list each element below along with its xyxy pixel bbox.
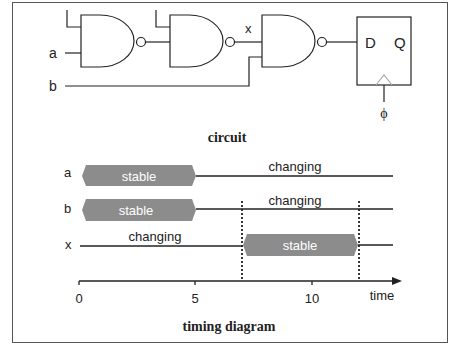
tick-0: 0: [75, 291, 82, 306]
row-label-b: b: [64, 201, 71, 216]
clock-label-phi: ϕ: [380, 106, 387, 121]
changing-label: changing: [129, 229, 182, 244]
tick-10: 10: [305, 291, 319, 306]
input-label-a: a: [49, 45, 57, 61]
stable-label: stable: [283, 238, 318, 253]
circuit-caption: circuit: [208, 130, 247, 145]
timing-caption: timing diagram: [183, 319, 276, 334]
changing-label: changing: [269, 159, 322, 174]
flip-flop-d-label: D: [365, 34, 376, 51]
row-label-a: a: [64, 165, 72, 180]
inverter-bubble: [318, 38, 327, 47]
axis-label-time: time: [370, 288, 395, 303]
stable-label: stable: [122, 169, 157, 184]
stable-label: stable: [119, 203, 154, 218]
tick-5: 5: [191, 291, 198, 306]
inverter-bubble: [137, 38, 146, 47]
signal-label-x: x: [245, 21, 252, 36]
diagram-canvas: a b x D Q ϕ circuit a stable changing b …: [0, 0, 453, 351]
inverter-bubble: [226, 38, 235, 47]
input-label-b: b: [49, 78, 57, 94]
row-label-x: x: [65, 237, 72, 252]
flip-flop-q-label: Q: [394, 34, 406, 51]
changing-label: changing: [269, 193, 322, 208]
